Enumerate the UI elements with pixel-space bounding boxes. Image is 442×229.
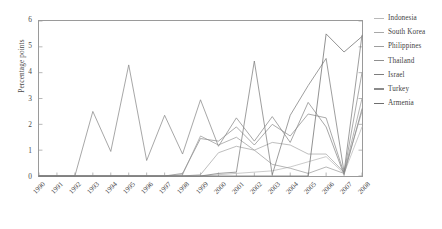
legend-line-swatch bbox=[374, 88, 384, 89]
legend-item-label: South Korea bbox=[388, 28, 425, 36]
legend-item-label: Turkey bbox=[388, 85, 409, 93]
legend-item-label: Indonesia bbox=[388, 14, 417, 22]
legend-item-south-korea[interactable]: South Korea bbox=[374, 25, 442, 39]
legend-item-label: Armenia bbox=[388, 99, 414, 107]
legend-item-philippines[interactable]: Philippines bbox=[374, 39, 442, 53]
line-chart-figure: Percentage points 0123456 19901991199219… bbox=[0, 0, 442, 229]
legend-item-armenia[interactable]: Armenia bbox=[374, 96, 442, 110]
legend-line-swatch bbox=[374, 103, 384, 104]
legend-item-label: Israel bbox=[388, 71, 405, 79]
legend-item-israel[interactable]: Israel bbox=[374, 68, 442, 82]
legend-item-turkey[interactable]: Turkey bbox=[374, 82, 442, 96]
legend-line-swatch bbox=[374, 60, 384, 61]
legend-line-swatch bbox=[374, 74, 384, 75]
legend-item-indonesia[interactable]: Indonesia bbox=[374, 11, 442, 25]
legend-line-swatch bbox=[374, 46, 384, 47]
legend: IndonesiaSouth KoreaPhilippinesThailandI… bbox=[374, 11, 442, 110]
legend-item-label: Philippines bbox=[388, 42, 421, 50]
legend-line-swatch bbox=[374, 32, 384, 33]
legend-line-swatch bbox=[374, 18, 384, 19]
legend-item-thailand[interactable]: Thailand bbox=[374, 54, 442, 68]
legend-item-label: Thailand bbox=[388, 57, 414, 65]
